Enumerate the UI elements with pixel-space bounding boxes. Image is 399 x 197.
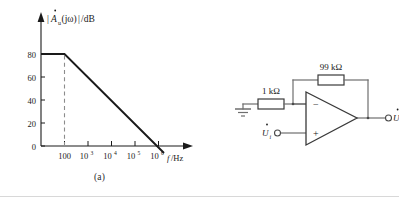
y-tick-marks xyxy=(41,54,45,146)
x-tick-label-1e3: 10 3 xyxy=(80,150,94,161)
x-axis-label: f /Hz xyxy=(167,153,184,163)
x-tick-label-1e5: 10 5 xyxy=(127,150,141,161)
svg-text:5: 5 xyxy=(138,150,141,156)
svg-text:10: 10 xyxy=(103,151,112,161)
bode-plot-svg: 0 20 40 60 80 100 10 3 xyxy=(0,0,205,170)
svg-text:10: 10 xyxy=(80,151,89,161)
svg-text:3: 3 xyxy=(91,150,94,156)
subfigure-caption-a: (a) xyxy=(94,172,105,182)
y-axis-label-a: A xyxy=(50,14,57,24)
y-axis-label-bar-close: | xyxy=(78,14,80,24)
x-tick-labels: 100 10 3 10 4 10 5 10 6 xyxy=(58,150,164,161)
x-tick-label-100: 100 xyxy=(58,151,71,161)
y-axis-label-unit: /dB xyxy=(81,14,95,24)
input-resistor-label: 1 kΩ xyxy=(262,86,280,96)
opamp-inverting-sign: − xyxy=(313,99,319,110)
y-axis-label-bar-open: | xyxy=(47,14,49,24)
input-voltage-label: U i xyxy=(262,124,272,140)
y-axis-label: | A u (jω) | /dB xyxy=(47,10,95,26)
output-voltage-symbol: U xyxy=(393,113,399,123)
output-voltage-label: U xyxy=(393,109,399,123)
y-tick-labels: 0 20 40 60 80 xyxy=(28,50,37,152)
y-tick-label-40: 40 xyxy=(28,96,37,106)
input-voltage-subscript: i xyxy=(270,134,272,140)
output-dot-accent-icon xyxy=(397,109,399,111)
svg-text:10: 10 xyxy=(127,151,136,161)
svg-text:4: 4 xyxy=(114,150,117,156)
feedback-resistor-body xyxy=(318,75,344,85)
input-terminal-circle[interactable] xyxy=(275,130,281,136)
svg-text:10: 10 xyxy=(150,151,159,161)
dot-accent-icon xyxy=(54,10,56,12)
bode-plot-panel: 0 20 40 60 80 100 10 3 xyxy=(0,0,205,197)
ground-symbol xyxy=(235,109,251,116)
y-tick-label-80: 80 xyxy=(28,50,37,60)
y-tick-label-0: 0 xyxy=(32,142,36,152)
magnitude-response-curve xyxy=(41,54,164,153)
input-voltage-symbol: U xyxy=(262,128,269,138)
circuit-svg: − + 1 kΩ 99 kΩ U i U xyxy=(205,0,399,170)
figure-frame: 0 20 40 60 80 100 10 3 xyxy=(0,0,399,197)
x-axis-label-unit: /Hz xyxy=(171,153,184,163)
opamp-noninverting-sign: + xyxy=(313,128,319,139)
input-dot-accent-icon xyxy=(266,124,268,126)
y-tick-label-60: 60 xyxy=(28,73,37,83)
circuit-panel: − + 1 kΩ 99 kΩ U i U xyxy=(205,0,399,197)
input-resistor-body xyxy=(258,99,284,109)
x-axis xyxy=(41,143,193,150)
y-axis xyxy=(38,12,45,146)
x-tick-label-1e4: 10 4 xyxy=(103,150,117,161)
inverting-node-junction xyxy=(292,103,295,106)
y-tick-label-20: 20 xyxy=(28,119,37,129)
output-node-junction xyxy=(367,117,370,120)
y-axis-label-jw: (jω) xyxy=(62,14,77,25)
output-terminal-circle[interactable] xyxy=(386,115,392,121)
x-tick-marks xyxy=(65,141,159,146)
feedback-resistor-label: 99 kΩ xyxy=(320,62,343,72)
